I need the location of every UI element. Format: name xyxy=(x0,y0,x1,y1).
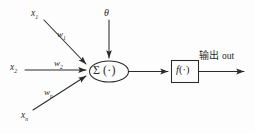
input-label-x1: x1 xyxy=(31,8,38,20)
output-label: 输出 out xyxy=(199,47,234,62)
neuron-diagram-canvas: x1 x2 xn w1 w2 wn θ Σ (·) f(·) 输出 out xyxy=(0,0,255,133)
activation-node-label: f(·) xyxy=(176,64,189,75)
input-label-xn: xn xyxy=(21,110,28,122)
weight-label-wn: wn xyxy=(44,87,53,99)
summation-node-label: Σ (·) xyxy=(93,63,116,78)
weight-label-w1: w1 xyxy=(57,29,66,41)
diagram-vector-layer xyxy=(0,0,255,133)
edge-xn-to-sum xyxy=(33,76,86,110)
bias-label-theta: θ xyxy=(104,7,109,18)
input-label-x2: x2 xyxy=(10,62,17,74)
weight-label-w2: w2 xyxy=(54,58,63,70)
edge-x1-to-sum xyxy=(44,20,86,64)
